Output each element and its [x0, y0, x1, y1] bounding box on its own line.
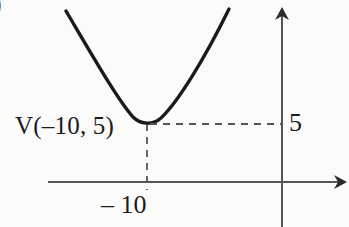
parabola-figure: ) V(–10, 5) 5 – 10 [0, 0, 349, 227]
y-axis-value-label: 5 [289, 110, 302, 136]
x-axis-value-label: – 10 [101, 192, 147, 218]
vertex-coordinate-label: V(–10, 5) [15, 113, 114, 138]
cropped-corner-mark: ) [0, 0, 2, 17]
parabola-curve [66, 9, 229, 123]
